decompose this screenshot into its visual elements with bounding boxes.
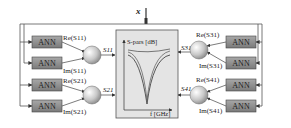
ann-box: ANN xyxy=(32,79,62,91)
ann-s-parameter-diagram: x ANN ANN ANN xyxy=(0,0,291,128)
ann-box: ANN xyxy=(32,57,62,69)
svg-text:Im(S41): Im(S41) xyxy=(199,107,223,115)
left-ann-group: ANN ANN ANN ANN xyxy=(32,36,62,112)
svg-text:ANN: ANN xyxy=(232,59,250,68)
svg-text:ANN: ANN xyxy=(232,102,250,111)
ann-box: ANN xyxy=(226,36,256,48)
svg-text:S41: S41 xyxy=(181,85,192,93)
svg-text:Re(S31): Re(S31) xyxy=(196,31,220,39)
combiner-node xyxy=(83,86,101,104)
combiner-node xyxy=(83,46,101,64)
combiner-node xyxy=(190,86,208,104)
input-x-label: x xyxy=(135,6,141,16)
svg-text:S21: S21 xyxy=(103,86,114,94)
svg-text:ANN: ANN xyxy=(232,38,250,47)
svg-text:Re(S21): Re(S21) xyxy=(63,77,87,85)
svg-text:ANN: ANN xyxy=(38,59,56,68)
svg-text:Im(S11): Im(S11) xyxy=(63,67,87,75)
s-parameter-plot-box: S-pars [dB] f [GHz] xyxy=(116,30,178,118)
ann-box: ANN xyxy=(226,100,256,112)
svg-text:S-pars [dB]: S-pars [dB] xyxy=(127,38,157,46)
svg-text:ANN: ANN xyxy=(38,102,56,111)
svg-text:ANN: ANN xyxy=(38,38,56,47)
svg-text:Im(S31): Im(S31) xyxy=(199,62,223,70)
svg-text:Im(S21): Im(S21) xyxy=(63,108,87,116)
svg-text:ANN: ANN xyxy=(232,81,250,90)
ann-box: ANN xyxy=(32,100,62,112)
svg-text:ANN: ANN xyxy=(38,81,56,90)
svg-text:S11: S11 xyxy=(103,46,113,54)
ann-box: ANN xyxy=(32,36,62,48)
input-x: x xyxy=(135,6,148,24)
combiner-node xyxy=(190,41,208,59)
ann-box: ANN xyxy=(226,79,256,91)
ann-box: ANN xyxy=(226,57,256,69)
left-labels: Re(S11) Im(S11) S11 Re(S21) Im(S21) S21 xyxy=(63,34,114,116)
svg-text:Re(S11): Re(S11) xyxy=(63,34,87,42)
right-ann-group: ANN ANN ANN ANN xyxy=(226,36,256,112)
svg-text:f [GHz]: f [GHz] xyxy=(150,110,170,118)
svg-text:Re(S41): Re(S41) xyxy=(196,76,220,84)
